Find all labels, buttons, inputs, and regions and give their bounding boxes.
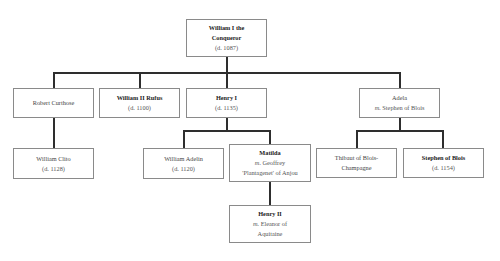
node-spouse: m. Stephen of Blois [375, 103, 425, 113]
connector-robert [53, 72, 55, 88]
node-adela: Adela m. Stephen of Blois [359, 88, 440, 118]
connector-william-down [226, 57, 228, 73]
connector-henry-i-children-bar [183, 130, 271, 132]
node-name: Thibaut of Blois- [335, 153, 378, 163]
node-william-ii-rufus: William II Rufus (d. 1100) [99, 88, 180, 118]
connector-matilda-henry-ii [269, 181, 271, 205]
node-name: Henry I [216, 93, 237, 103]
node-death-date: (d. 1100) [128, 103, 151, 113]
connector-rufus [139, 72, 141, 88]
node-henry-ii: Henry II m. Eleanor of Aquitaine [229, 205, 311, 243]
connector-henry-i [226, 72, 228, 88]
node-matilda: Matilda m. Geoffrey 'Plantagenet' of Anj… [229, 144, 311, 182]
node-name: Adela [392, 93, 407, 103]
spouse-name: 'Plantagenet' of Anjou [242, 168, 297, 178]
node-name: Robert Curthose [33, 98, 74, 108]
node-name: William II Rufus [117, 93, 163, 103]
connector-adela [399, 72, 401, 88]
node-william-i: William I the Conqueror (d. 1087) [186, 19, 267, 57]
node-thibaut: Thibaut of Blois- Champagne [316, 148, 397, 178]
spouse-name: Geoffrey [263, 159, 286, 166]
node-william-clito: William Clito (d. 1128) [13, 148, 94, 179]
node-robert-curthose: Robert Curthose [13, 88, 94, 118]
connector-adela-children-bar [356, 130, 444, 132]
spouse-name: Aquitaine [258, 229, 283, 239]
connector-adelin [183, 130, 185, 148]
node-spouse: m. Geoffrey [255, 158, 285, 168]
node-stephen-of-blois: Stephen of Blois (d. 1154) [403, 148, 484, 178]
spouse-name: Stephen of Blois [382, 104, 424, 111]
node-name: Stephen of Blois [422, 153, 465, 163]
node-death-date: (d. 1135) [215, 103, 238, 113]
connector-matilda [269, 130, 271, 144]
connector-henry-i-down [226, 117, 228, 131]
node-death-date: (d. 1120) [172, 164, 195, 174]
node-death-date: (d. 1087) [215, 43, 238, 53]
node-name: Champagne [341, 163, 371, 173]
node-name: Conqueror [212, 33, 242, 43]
node-death-date: (d. 1128) [42, 164, 65, 174]
node-william-adelin: William Adelin (d. 1120) [143, 148, 224, 179]
married-marker: m. [255, 159, 261, 166]
connector-robert-clito [53, 117, 55, 148]
node-name: William Adelin [164, 154, 203, 164]
node-death-date: (d. 1154) [432, 163, 455, 173]
node-henry-i: Henry I (d. 1135) [186, 88, 267, 118]
connector-adela-down [399, 117, 401, 131]
node-name: Matilda [259, 148, 280, 158]
spouse-name: Eleanor of [261, 220, 287, 227]
node-name: Henry II [258, 209, 282, 219]
connector-thibaut [356, 130, 358, 148]
node-spouse: m. Eleanor of [253, 219, 287, 229]
connector-stephen [442, 130, 444, 148]
node-name: William Clito [36, 154, 71, 164]
married-marker: m. [375, 104, 381, 111]
node-name: William I the [209, 23, 245, 33]
married-marker: m. [253, 220, 259, 227]
